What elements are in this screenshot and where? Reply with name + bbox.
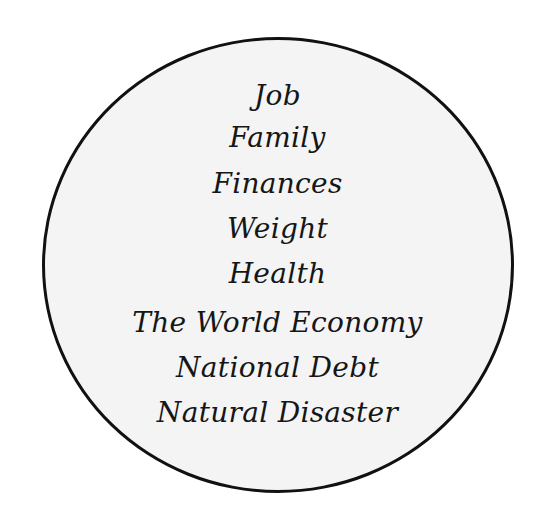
list-item-health: Health (0, 258, 545, 290)
list-item-family: Family (0, 122, 545, 154)
list-item-weight: Weight (0, 213, 545, 245)
list-item-finances: Finances (0, 168, 545, 200)
list-item-world-economy: The World Economy (0, 307, 545, 339)
worry-list: Job Family Finances Weight Health The Wo… (0, 0, 545, 511)
list-item-natural-disaster: Natural Disaster (0, 397, 545, 429)
list-item-job: Job (0, 80, 545, 112)
list-item-national-debt: National Debt (0, 352, 545, 384)
